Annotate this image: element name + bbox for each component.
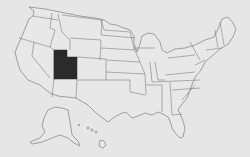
hawaii-island xyxy=(91,129,93,131)
hawaii-island xyxy=(95,131,97,133)
us-map xyxy=(0,0,250,157)
hawaii xyxy=(99,140,106,148)
alaska xyxy=(30,107,80,146)
hawaii-island xyxy=(87,127,89,129)
hawaii-island xyxy=(78,124,79,125)
